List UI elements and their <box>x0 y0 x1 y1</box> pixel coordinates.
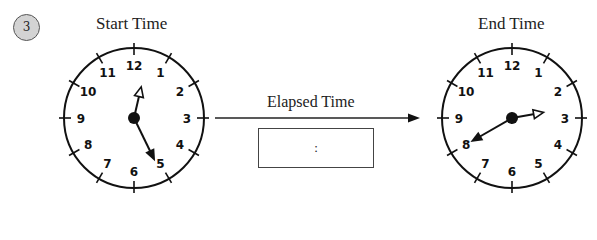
clock-number: 7 <box>481 157 489 171</box>
clock-number: 2 <box>176 85 184 99</box>
clock-number: 12 <box>504 59 521 73</box>
clock-number: 4 <box>554 138 562 152</box>
clock-number: 11 <box>99 66 116 80</box>
clock-number: 10 <box>80 85 97 99</box>
clock-number: 6 <box>508 165 516 179</box>
clock-number: 10 <box>458 85 475 99</box>
clock-number: 8 <box>84 138 92 152</box>
clock-number: 5 <box>156 157 164 171</box>
clock-number: 5 <box>534 157 542 171</box>
clock-number: 3 <box>183 112 191 126</box>
clock-number: 8 <box>462 138 470 152</box>
elapsed-time-label: Elapsed Time <box>267 93 355 111</box>
clock-number: 7 <box>103 157 111 171</box>
clock-number: 1 <box>534 66 542 80</box>
clock-number: 9 <box>77 112 85 126</box>
elapsed-time-answer-box[interactable]: : <box>258 128 374 168</box>
end-clock: 121234567891011 <box>437 43 587 193</box>
clock-number: 12 <box>126 59 143 73</box>
clock-number: 9 <box>455 112 463 126</box>
clock-number: 4 <box>176 138 184 152</box>
arrowhead-icon <box>408 114 420 123</box>
clock-center-dot <box>506 112 518 124</box>
clock-number: 11 <box>477 66 494 80</box>
clock-number: 2 <box>554 85 562 99</box>
clock-number: 1 <box>156 66 164 80</box>
start-clock: 121234567891011 <box>59 43 209 193</box>
clock-number: 3 <box>561 112 569 126</box>
clock-center-dot <box>128 112 140 124</box>
clock-number: 6 <box>130 165 138 179</box>
